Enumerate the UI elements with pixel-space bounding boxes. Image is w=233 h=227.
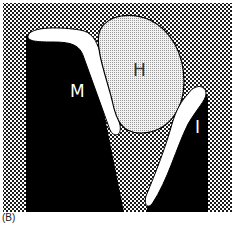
label-h: H	[133, 62, 146, 79]
panel-label: (B)	[2, 212, 15, 223]
anatomical-diagram	[0, 0, 233, 227]
label-m: M	[70, 83, 85, 100]
label-i: I	[195, 119, 200, 136]
